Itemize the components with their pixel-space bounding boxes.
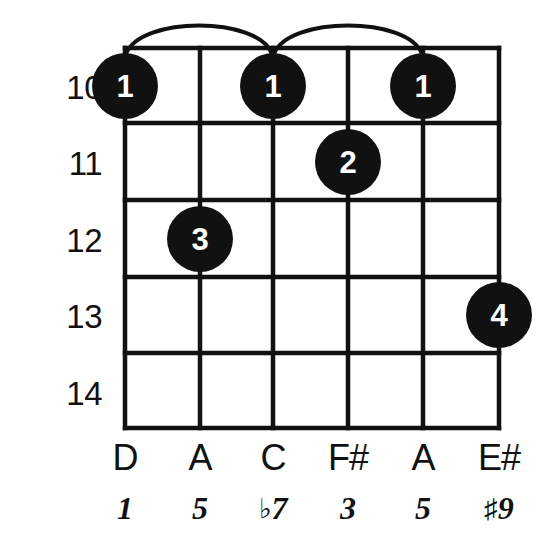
finger-dot-string-6-fret-13 [466,282,532,348]
finger-dot-string-3-fret-10 [240,53,306,119]
interval-string-6: ♯9 [454,492,544,524]
interval-degree-string-3: 7 [272,490,288,526]
note-name-string-6: E# [454,440,544,476]
fret-number-13: 13 [28,300,102,333]
interval-accidental-string-3: ♭ [259,494,272,524]
finger-dot-string-4-fret-11 [315,129,381,195]
finger-dot-string-2-fret-12 [167,206,233,272]
interval-degree-string-1: 1 [117,490,133,526]
chord-diagram: 10 11 12 13 14 1 1 1 2 3 4 D A C F# A E#… [0,0,554,557]
finger-dot-string-5-fret-10 [390,53,456,119]
interval-degree-string-2: 5 [192,490,208,526]
fret-number-14: 14 [28,377,102,410]
fret-number-10: 10 [28,71,102,104]
interval-degree-string-5: 5 [415,490,431,526]
interval-degree-string-4: 3 [340,490,356,526]
fret-number-11: 11 [28,147,102,180]
interval-accidental-string-6: ♯ [484,494,498,524]
fret-number-12: 12 [28,224,102,257]
interval-degree-string-6: 9 [498,490,514,526]
